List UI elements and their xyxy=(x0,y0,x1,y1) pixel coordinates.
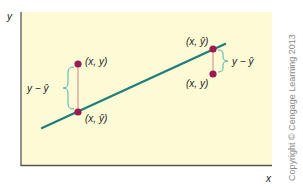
left-observed-point xyxy=(74,60,81,67)
right-observed-label: (x, y) xyxy=(186,78,208,89)
x-axis-label: x xyxy=(265,173,272,184)
plot-area xyxy=(21,12,272,165)
residual-diagram: y x (x, y) (x, ŷ) y − ŷ (x, ŷ) (x, y) y … xyxy=(0,0,303,187)
right-observed-point xyxy=(209,70,216,77)
left-observed-label: (x, y) xyxy=(85,56,107,67)
right-predicted-label: (x, ŷ) xyxy=(186,36,208,47)
left-residual-label: y − ŷ xyxy=(26,83,49,94)
right-predicted-point xyxy=(209,45,216,52)
left-predicted-point xyxy=(74,108,81,115)
left-predicted-label: (x, ŷ) xyxy=(85,113,107,124)
right-residual-label: y − ŷ xyxy=(231,56,254,67)
y-axis-label: y xyxy=(6,11,13,22)
copyright-notice: Copyright © Cengage Learning 2013 xyxy=(287,34,297,181)
